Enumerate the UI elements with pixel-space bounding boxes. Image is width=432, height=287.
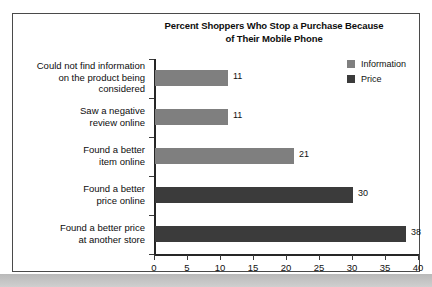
x-axis-label-10: 10 xyxy=(215,262,226,273)
y-axis-tick-3 xyxy=(149,176,154,177)
y-axis-tick-0 xyxy=(149,59,154,60)
bar-value-3: 30 xyxy=(358,188,368,198)
category-label-2: Found a better item online xyxy=(21,144,145,167)
y-axis-tick-1 xyxy=(149,98,154,99)
chart-title-line-2: of Their Mobile Phone xyxy=(225,33,322,44)
x-axis-tick-10 xyxy=(220,255,221,260)
x-axis-label-25: 25 xyxy=(314,262,325,273)
y-axis-tick-4 xyxy=(149,215,154,216)
chart-figure-frame: Percent Shoppers Who Stop a Purchase Bec… xyxy=(12,13,420,272)
bar-information-1[interactable] xyxy=(155,109,228,125)
x-axis-tick-40 xyxy=(418,255,419,260)
chart-title: Percent Shoppers Who Stop a Purchase Bec… xyxy=(133,20,415,45)
x-axis-tick-35 xyxy=(385,255,386,260)
category-label-1: Saw a negative review online xyxy=(21,105,145,128)
x-axis-label-20: 20 xyxy=(281,262,292,273)
bar-value-2: 21 xyxy=(299,149,309,159)
category-label-4: Found a better price at another store xyxy=(21,222,145,245)
x-axis-label-30: 30 xyxy=(347,262,358,273)
x-axis-label-40: 40 xyxy=(413,262,424,273)
category-label-0: Could not find information on the produc… xyxy=(21,60,145,95)
category-label-3: Found a better price online xyxy=(21,183,145,206)
x-axis-label-35: 35 xyxy=(380,262,391,273)
y-axis-tick-2 xyxy=(149,137,154,138)
bar-value-1: 11 xyxy=(233,110,242,120)
page-bottom-strip xyxy=(0,274,432,287)
chart-title-line-1: Percent Shoppers Who Stop a Purchase Bec… xyxy=(165,20,384,31)
x-axis-label-0: 0 xyxy=(151,262,156,273)
bar-information-0[interactable] xyxy=(155,70,228,86)
x-axis-label-5: 5 xyxy=(184,262,189,273)
x-axis-label-15: 15 xyxy=(248,262,259,273)
bar-value-4: 38 xyxy=(411,227,421,237)
x-axis-tick-20 xyxy=(286,255,287,260)
bar-information-2[interactable] xyxy=(155,148,294,164)
bar-value-0: 11 xyxy=(233,71,242,81)
x-axis-tick-5 xyxy=(187,255,188,260)
plot-area: 11 11 21 30 38 xyxy=(154,59,418,254)
x-axis-tick-25 xyxy=(319,255,320,260)
x-axis-tick-0 xyxy=(154,255,155,260)
x-axis-tick-15 xyxy=(253,255,254,260)
x-axis-tick-30 xyxy=(352,255,353,260)
figure-page: Percent Shoppers Who Stop a Purchase Bec… xyxy=(0,0,432,287)
bar-price-3[interactable] xyxy=(155,187,353,203)
bar-price-4[interactable] xyxy=(155,226,406,242)
